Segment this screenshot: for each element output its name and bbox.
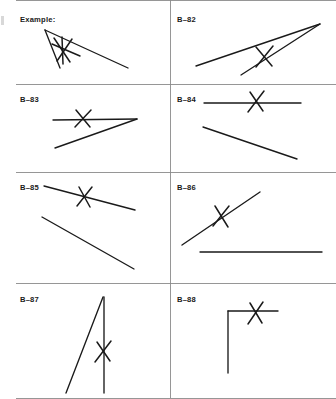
cell-label-example: Example: xyxy=(20,16,55,24)
x-mark-b-84 xyxy=(248,91,264,112)
figure-b-82 xyxy=(196,24,320,75)
figure-b-88 xyxy=(228,302,278,373)
line-diagonal-line xyxy=(182,192,260,245)
x-mark-stroke-0 xyxy=(52,44,80,56)
cell-label-b-82: B–82 xyxy=(177,16,196,24)
figure-example xyxy=(45,30,128,68)
figure-b-83 xyxy=(53,110,137,148)
line-long-line xyxy=(196,24,320,66)
figure-b-86 xyxy=(182,192,322,252)
worksheet-page: Example:B–82B–83B–84B–85B–86B–87B–88 xyxy=(0,0,336,399)
x-mark-b-87 xyxy=(95,341,111,362)
x-mark-stroke-1 xyxy=(213,206,229,226)
x-mark-stroke-1 xyxy=(57,39,72,61)
cell-label-b-87: B–87 xyxy=(20,296,39,304)
line-diagonal-line xyxy=(203,127,297,159)
x-mark-b-86 xyxy=(213,206,229,227)
figures-layer xyxy=(0,0,336,399)
line-lower-line xyxy=(42,217,134,269)
line-short-line xyxy=(241,24,320,75)
cell-label-b-86: B–86 xyxy=(177,184,196,192)
figure-b-87 xyxy=(66,297,111,393)
x-mark-stroke-1 xyxy=(77,187,92,206)
x-mark-b-83 xyxy=(75,110,91,127)
cell-label-b-88: B–88 xyxy=(177,296,196,304)
x-mark-stroke-3 xyxy=(62,37,63,64)
x-mark-b-85 xyxy=(77,187,92,207)
figure-b-84 xyxy=(203,91,301,159)
line-horizontal-line xyxy=(53,119,137,120)
line-slanted-line xyxy=(66,297,103,393)
figure-b-85 xyxy=(42,186,135,269)
line-diagonal-line xyxy=(55,119,137,148)
x-mark-b-88 xyxy=(248,302,263,324)
cell-label-b-85: B–85 xyxy=(20,184,39,192)
cell-label-b-83: B–83 xyxy=(20,96,39,104)
cell-label-b-84: B–84 xyxy=(177,96,196,104)
